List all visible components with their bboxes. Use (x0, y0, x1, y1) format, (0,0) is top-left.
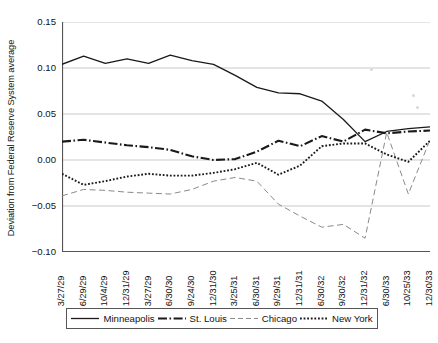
chart-legend: MinneapolisSt. LouisChicagoNew York (66, 308, 378, 329)
legend-item-st-louis[interactable]: St. Louis (158, 314, 227, 324)
x-tick-label: 6/30/30 (165, 275, 174, 306)
x-tick-label: 6/30/31 (252, 275, 261, 306)
legend-item-chicago[interactable]: Chicago (230, 314, 297, 324)
x-tick-label: 12/31/29 (122, 270, 131, 306)
y-tick-label: −0.10 (32, 247, 56, 257)
y-axis-title: Deviation from Federal Reserve System av… (0, 0, 22, 275)
scan-speck (370, 68, 373, 71)
y-tick-label: 0.05 (37, 109, 56, 119)
y-tick-label: 0.10 (37, 63, 56, 73)
plot-svg (62, 22, 430, 252)
legend-label: St. Louis (190, 314, 227, 324)
legend-swatch-dash-dot (158, 314, 186, 323)
x-tick-label: 3/27/29 (143, 275, 152, 306)
x-tick-label: 9/24/30 (187, 275, 196, 306)
x-tick-label: 12/31/32 (360, 270, 369, 306)
legend-swatch-dotted (300, 314, 328, 323)
y-axis-tick-labels: 0.150.100.050.00−0.05−0.10 (22, 0, 60, 275)
x-axis-tick-labels: 3/27/296/29/2910/4/2912/31/293/27/296/30… (62, 258, 430, 306)
legend-swatch-solid (71, 314, 99, 323)
x-tick-label: 6/29/29 (78, 275, 87, 306)
x-tick-label: 6/30/32 (317, 275, 326, 306)
legend-label: Chicago (262, 314, 297, 324)
legend-item-new-york[interactable]: New York (300, 314, 373, 324)
legend-label: Minneapolis (103, 314, 154, 324)
x-tick-label: 12/31/31 (295, 270, 304, 306)
legend-swatch-long-dash (230, 314, 258, 323)
x-tick-label: 6/30/33 (382, 275, 391, 306)
x-tick-label: 10/4/29 (100, 275, 109, 306)
y-tick-label: −0.05 (32, 201, 56, 211)
x-tick-label: 12/31/30 (208, 270, 217, 306)
series-line-new-york (62, 141, 430, 185)
scan-speck (416, 106, 419, 109)
series-line-st-louis (62, 130, 430, 160)
x-tick-label: 9/30/32 (338, 275, 347, 306)
y-axis-title-text: Deviation from Federal Reserve System av… (6, 39, 16, 236)
scan-speck (412, 94, 415, 97)
legend-item-minneapolis[interactable]: Minneapolis (71, 314, 154, 324)
y-tick-label: 0.15 (37, 17, 56, 27)
chart-figure: Deviation from Federal Reserve System av… (0, 0, 438, 343)
x-tick-label: 9/29/31 (273, 275, 282, 306)
y-tick-label: 0.00 (37, 155, 56, 165)
x-tick-label: 3/25/31 (230, 275, 239, 306)
plot-area (62, 22, 430, 252)
x-tick-label: 12/30/33 (425, 270, 434, 306)
x-tick-label: 3/27/29 (57, 275, 66, 306)
legend-label: New York (332, 314, 373, 324)
x-tick-label: 10/25/33 (403, 270, 412, 306)
